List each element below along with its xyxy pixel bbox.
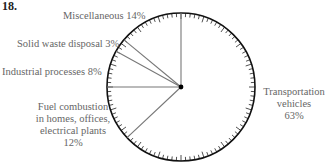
slice-label: Solid waste disposal 3% <box>17 38 120 49</box>
slice-label-line: in homes, offices, <box>36 113 110 124</box>
tick-mark <box>236 44 241 48</box>
tick-mark <box>121 127 126 131</box>
slice-label-line: Industrial processes 8% <box>2 66 102 77</box>
tick-mark <box>158 17 160 23</box>
slice-dividers <box>107 13 181 138</box>
tick-mark <box>158 152 160 158</box>
slice-label: Miscellaneous 14% <box>63 10 146 21</box>
slice-label: Industrial processes 8% <box>2 66 102 77</box>
slice-label-line: Transportation <box>263 86 325 97</box>
slice-label-line: Fuel combustion <box>38 101 109 112</box>
problem-number: 18. <box>2 0 17 13</box>
slice-label: Fuel combustionin homes, offices,electri… <box>36 101 110 148</box>
tick-mark <box>221 27 225 32</box>
tick-mark <box>246 108 252 110</box>
tick-mark <box>111 108 117 110</box>
slice-label-line: electrical plants <box>40 125 106 136</box>
tick-mark <box>221 142 225 147</box>
slice-divider <box>116 51 181 87</box>
tick-mark <box>202 17 204 23</box>
tick-mark <box>111 64 117 66</box>
slice-divider <box>127 87 181 138</box>
tick-mark <box>138 27 142 32</box>
tick-mark <box>202 152 204 158</box>
pie-chart: 18. Transportationvehicles63%Fuel combus… <box>0 0 329 168</box>
center-dot <box>179 85 184 90</box>
slice-divider <box>124 40 181 87</box>
slice-label-line: Solid waste disposal 3% <box>17 38 120 49</box>
tick-mark <box>138 142 142 147</box>
slice-label: Transportationvehicles63% <box>263 86 325 121</box>
tick-mark <box>236 127 241 131</box>
tick-mark <box>121 44 126 48</box>
slice-label-line: 63% <box>284 110 304 121</box>
slice-label-line: Miscellaneous 14% <box>63 10 146 21</box>
slice-labels: Transportationvehicles63%Fuel combustion… <box>2 10 325 148</box>
slice-label-line: vehicles <box>277 98 311 109</box>
tick-mark <box>246 64 252 66</box>
slice-label-line: 12% <box>63 137 83 148</box>
